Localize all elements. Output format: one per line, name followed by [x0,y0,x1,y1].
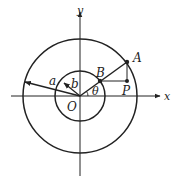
label-theta: θ [92,85,99,98]
y-axis-label: y [76,4,84,17]
diagram-canvas: x y A B P O a b θ [0,0,180,183]
label-A: A [132,51,142,65]
label-P: P [121,84,131,98]
point-P [125,79,129,83]
point-A [125,60,129,64]
angle-theta-arc [87,91,89,96]
label-b: b [71,77,79,91]
label-B: B [95,66,105,80]
label-O: O [67,100,77,114]
x-axis-label: x [164,90,171,103]
label-a: a [49,74,56,88]
